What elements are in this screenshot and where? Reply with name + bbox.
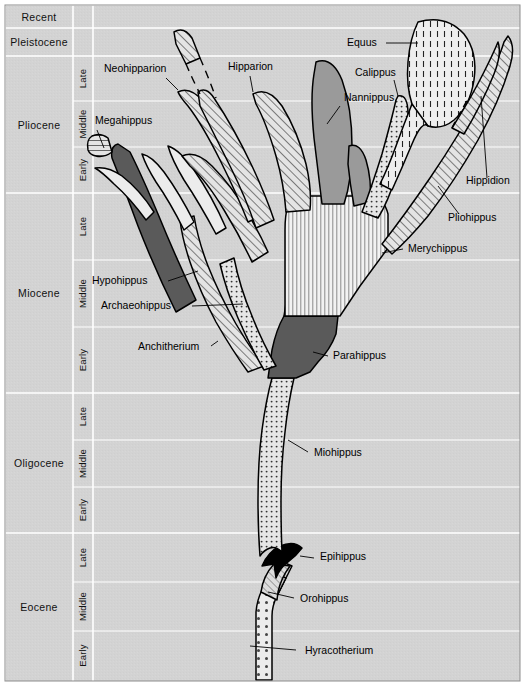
genus-label-anchitherium: Anchitherium: [138, 340, 200, 352]
genus-label-neohipparion: Neohipparion: [104, 62, 167, 74]
epoch-label: Miocene: [18, 287, 60, 299]
phylogeny-diagram: RecentPleistocenePlioceneLateMiddleEarly…: [0, 0, 527, 687]
genus-label-hipparion: Hipparion: [228, 60, 273, 72]
genus-label-nannippus: Nannippus: [344, 91, 394, 103]
epoch-label: Pliocene: [18, 119, 61, 131]
subepoch-label: Early: [77, 159, 88, 182]
genus-label-megahippus: Megahippus: [95, 114, 152, 126]
genus-label-equus: Equus: [347, 36, 377, 48]
epoch-label: Oligocene: [14, 457, 64, 469]
genus-label-miohippus: Miohippus: [314, 446, 362, 458]
epoch-label: Eocene: [20, 601, 57, 613]
genus-label-parahippus: Parahippus: [333, 349, 386, 361]
subepoch-label: Late: [77, 548, 88, 567]
figure-root: RecentPleistocenePlioceneLateMiddleEarly…: [0, 0, 527, 687]
subepoch-cell-pliocene-late[interactable]: Late: [77, 69, 88, 88]
subepoch-label: Middle: [77, 279, 88, 308]
subepoch-label: Late: [77, 69, 88, 88]
subepoch-label: Early: [77, 349, 88, 372]
subepoch-cell-eocene-late[interactable]: Late: [77, 548, 88, 567]
subepoch-label: Middle: [77, 592, 88, 621]
subepoch-label: Middle: [77, 449, 88, 478]
genus-label-pliohippus: Pliohippus: [448, 211, 496, 223]
genus-label-hippidion: Hippidion: [466, 174, 510, 186]
subepoch-cell-miocene-late[interactable]: Late: [77, 217, 88, 236]
genus-label-merychippus: Merychippus: [408, 242, 468, 254]
genus-label-calippus: Calippus: [355, 66, 396, 78]
genus-label-archaeohippus: Archaeohippus: [101, 299, 171, 311]
subepoch-label: Middle: [77, 109, 88, 138]
subepoch-cell-oligocene-late[interactable]: Late: [77, 407, 88, 426]
genus-label-hyracotherium: Hyracotherium: [305, 644, 374, 656]
subepoch-label: Late: [77, 217, 88, 236]
epoch-label: Recent: [21, 11, 56, 23]
genus-label-orohippus: Orohippus: [300, 592, 348, 604]
subepoch-label: Early: [77, 499, 88, 522]
genus-label-epihippus: Epihippus: [320, 550, 366, 562]
genus-label-hypohippus: Hypohippus: [92, 274, 147, 286]
epoch-label: Pleistocene: [10, 36, 68, 48]
subepoch-label: Early: [77, 644, 88, 667]
subepoch-label: Late: [77, 407, 88, 426]
